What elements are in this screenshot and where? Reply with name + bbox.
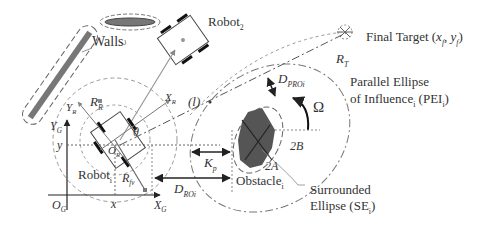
droi-label: DROi bbox=[174, 182, 196, 198]
dproi-arrow bbox=[268, 78, 275, 96]
kp-label: Kp bbox=[204, 156, 217, 172]
pei-label-line2: of Influencei (PEIi) bbox=[350, 92, 449, 108]
se-label-line1: Surrounded bbox=[310, 183, 371, 196]
rfv-label: Rfv bbox=[122, 172, 135, 188]
wall-top bbox=[105, 18, 155, 26]
rfv-end bbox=[143, 188, 147, 192]
rr-label: RR bbox=[90, 95, 103, 111]
theta-label: θ bbox=[133, 126, 139, 138]
og-label: OG bbox=[52, 199, 66, 215]
target-ray bbox=[120, 32, 348, 145]
se-label-line2: Ellipse (SEi) bbox=[310, 199, 375, 215]
two-a-label: 2A bbox=[265, 160, 278, 172]
final-target-icon bbox=[337, 25, 353, 39]
or-label: OR bbox=[108, 145, 120, 159]
rt-label: RT bbox=[336, 52, 348, 68]
walls-label: Walls bbox=[92, 35, 124, 49]
omega-arrow bbox=[293, 98, 308, 130]
robot1-label: Roboti bbox=[78, 168, 112, 184]
two-b-label: 2B bbox=[290, 140, 303, 152]
xg-label: XG bbox=[154, 199, 167, 215]
xr-label: XR bbox=[165, 92, 176, 106]
robot-1 bbox=[85, 106, 152, 175]
yr-label: YR bbox=[66, 102, 76, 116]
robot2-label: Robot2 bbox=[208, 15, 244, 31]
yg-label: YG bbox=[50, 120, 62, 136]
x-label: x bbox=[111, 198, 116, 210]
dproi-label: DPROi bbox=[278, 72, 305, 88]
obstacle-label: Obstaclei bbox=[236, 174, 284, 190]
robot1-yr-axis bbox=[78, 102, 130, 165]
robot-2 bbox=[155, 12, 211, 68]
l-label: (l) bbox=[188, 95, 200, 108]
final-target-label: Final Target (xf, yf) bbox=[366, 30, 463, 46]
pei-label-line1: Parallel Ellipse bbox=[350, 75, 429, 88]
wall-diagonal bbox=[28, 31, 93, 120]
omega-label: Ω bbox=[313, 100, 324, 115]
y-label: y bbox=[57, 139, 62, 151]
